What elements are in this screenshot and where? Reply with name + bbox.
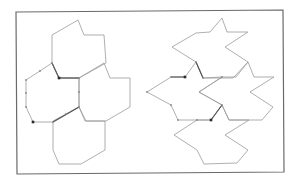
highlighted-edge — [196, 62, 203, 78]
vertex-marker-bold — [210, 119, 213, 122]
vertex-marker — [78, 91, 80, 93]
hexagon-tiling-tile-right — [79, 63, 130, 121]
hexagon-tiling-panel — [25, 20, 130, 164]
hexagon-tiling-tile-top — [52, 20, 106, 78]
vertex-marker — [202, 77, 204, 79]
vertex-marker-bold — [58, 77, 61, 80]
vertex-marker — [25, 79, 27, 81]
star-tiling-tile-top — [172, 18, 248, 78]
vertex-marker — [25, 92, 27, 94]
vertex-marker-bold — [184, 76, 187, 79]
vertex-marker — [78, 77, 80, 79]
hexagon-tiling-tile-left — [26, 63, 79, 122]
vertex-marker — [170, 104, 172, 106]
highlighted-edge — [52, 63, 59, 78]
star-tiling-tile-bottom — [174, 105, 249, 164]
vertex-marker — [221, 76, 223, 78]
vertex-marker — [65, 113, 67, 115]
vertex-marker — [51, 62, 53, 64]
vertex-marker-bold — [32, 121, 35, 124]
vertex-marker — [52, 121, 54, 123]
vertex-marker — [195, 61, 197, 63]
vertex-marker — [146, 91, 148, 93]
vertex-marker — [221, 104, 223, 106]
vertex-marker — [170, 76, 172, 78]
hexagon-tiling-tile-bottom — [53, 107, 105, 164]
vertex-marker — [78, 106, 80, 108]
vertex-marker — [25, 106, 27, 108]
star-tiling-panel — [146, 18, 274, 164]
star-tiling-tile-left — [147, 62, 222, 120]
tessellation-figure — [0, 0, 299, 182]
vertex-marker — [177, 119, 179, 121]
star-tiling-tile-right — [199, 62, 274, 120]
vertex-marker — [39, 70, 41, 72]
highlighted-edge — [211, 105, 222, 120]
vertex-marker — [196, 119, 198, 121]
